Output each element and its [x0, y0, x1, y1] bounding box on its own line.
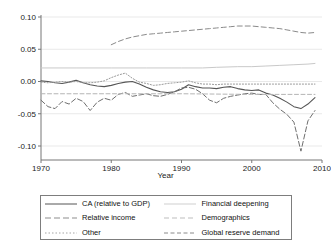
- series-line: [41, 73, 315, 85]
- legend-swatch-solid: [44, 199, 78, 208]
- legend-item-demographics[interactable]: Demographics: [160, 210, 291, 224]
- y-tick-label: -0.10: [18, 142, 37, 151]
- legend-item-ca[interactable]: CA (relative to GDP): [41, 196, 160, 210]
- legend-swatch-dash-light: [163, 213, 197, 222]
- legend-label-other: Other: [78, 228, 101, 237]
- legend-swatch-dash: [44, 213, 78, 222]
- legend-label-financial-deepening: Financial deepening: [197, 199, 268, 208]
- series-line: [41, 63, 315, 68]
- y-tick-label: 0.00: [20, 77, 36, 86]
- series-line: [41, 80, 315, 108]
- series-line: [41, 94, 315, 95]
- legend-item-other[interactable]: Other: [41, 225, 160, 239]
- y-tick-label: 0.10: [20, 13, 36, 22]
- y-tick-label: -0.05: [18, 110, 37, 119]
- figure: 0.100.050.00-0.05-0.10197019801990200020…: [0, 0, 331, 245]
- legend-swatch-dot: [44, 228, 78, 237]
- legend-label-demographics: Demographics: [197, 213, 249, 222]
- legend-label-global-reserve-demand: Global reserve demand: [197, 228, 279, 237]
- legend-swatch-dash-long: [163, 228, 197, 237]
- legend-item-global-reserve-demand[interactable]: Global reserve demand: [160, 225, 291, 239]
- legend-item-financial-deepening[interactable]: Financial deepening: [160, 196, 291, 210]
- series-line: [111, 26, 315, 45]
- series-line: [41, 87, 315, 151]
- legend-swatch-solid-light: [163, 199, 197, 208]
- legend-item-relative-income[interactable]: Relative income: [41, 210, 160, 224]
- chart-legend: CA (relative to GDP) Financial deepening…: [40, 195, 292, 240]
- legend-label-ca: CA (relative to GDP): [78, 199, 150, 208]
- x-axis-title: Year: [0, 171, 331, 180]
- y-tick-label: 0.05: [20, 45, 36, 54]
- legend-label-relative-income: Relative income: [78, 213, 135, 222]
